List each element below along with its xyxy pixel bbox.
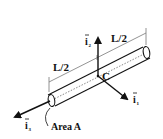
axis-i3-arrow <box>15 101 50 117</box>
svg-text:2: 2 <box>89 43 92 48</box>
beam-diagram: L/2 L/2 C Area A i 2 i 1 i 3 <box>0 0 163 139</box>
axis-i2-label: i 2 <box>85 35 92 48</box>
segment-right-label: L/2 <box>111 32 127 44</box>
area-label: Area A <box>51 121 82 132</box>
center-label: C <box>102 70 110 82</box>
area-pointer <box>45 108 50 126</box>
axis-i1-label: i 1 <box>133 93 140 106</box>
right-end-cap <box>142 46 150 59</box>
svg-text:1: 1 <box>137 101 140 106</box>
axis-i3-label: i 3 <box>25 119 32 132</box>
left-end-cap <box>47 94 55 107</box>
svg-text:3: 3 <box>29 127 32 132</box>
segment-left-label: L/2 <box>53 61 69 73</box>
